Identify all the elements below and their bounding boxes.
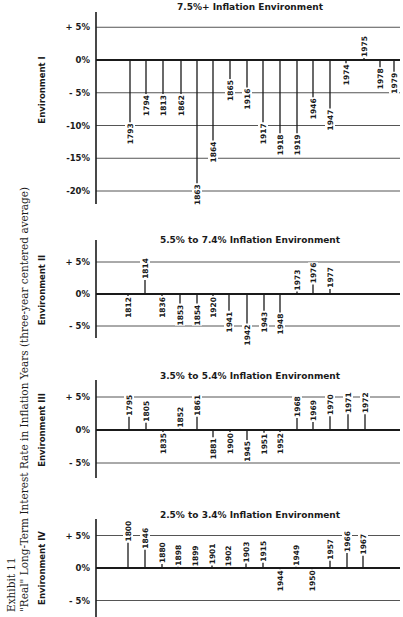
year-label: 1942 bbox=[243, 325, 252, 346]
panel-title: 5.5% to 7.4% Inflation Environment bbox=[160, 235, 341, 245]
year-label: 1916 bbox=[243, 89, 252, 110]
ytick-label: + 5% bbox=[65, 392, 90, 402]
year-label: 1795 bbox=[125, 395, 134, 416]
panel-1: 7.5%+ Inflation EnvironmentEnvironment I… bbox=[37, 2, 400, 205]
ytick-label: - 5% bbox=[69, 321, 90, 331]
year-label: 1814 bbox=[141, 258, 150, 279]
year-label: 1794 bbox=[142, 95, 151, 116]
year-label: 1969 bbox=[309, 400, 318, 421]
year-label: 1898 bbox=[174, 545, 183, 566]
year-label: 1899 bbox=[191, 545, 200, 566]
year-label: 1800 bbox=[124, 521, 133, 542]
year-label: 1812 bbox=[124, 297, 133, 318]
year-label: 1973 bbox=[293, 270, 302, 291]
panel-title: 7.5%+ Inflation Environment bbox=[177, 2, 324, 12]
year-label: 1852 bbox=[176, 407, 185, 428]
year-label: 1865 bbox=[226, 80, 235, 101]
exhibit-title-rotated: "Real" Long-Term Interest Rate in Inflat… bbox=[18, 187, 30, 612]
year-label: 1945 bbox=[243, 441, 252, 462]
year-label: 1862 bbox=[177, 95, 186, 116]
year-label: 1947 bbox=[326, 110, 335, 131]
ytick-label: 0% bbox=[76, 55, 91, 65]
year-label: 1901 bbox=[208, 543, 217, 564]
year-label: 1966 bbox=[343, 531, 352, 552]
year-label: 1919 bbox=[293, 134, 302, 155]
year-label: 1950 bbox=[308, 570, 317, 591]
year-label: 1918 bbox=[276, 134, 285, 155]
year-label: 1970 bbox=[326, 394, 335, 415]
panel-2: 5.5% to 7.4% Inflation EnvironmentEnviro… bbox=[37, 235, 400, 345]
year-label: 1805 bbox=[142, 401, 151, 422]
year-label: 1813 bbox=[159, 95, 168, 116]
ytick-label: -20% bbox=[66, 186, 90, 196]
year-label: 1864 bbox=[209, 142, 218, 163]
year-label: 1915 bbox=[259, 541, 268, 562]
ytick-label: + 5% bbox=[65, 531, 90, 541]
year-label: 1900 bbox=[226, 433, 235, 454]
year-label: 1944 bbox=[276, 570, 285, 591]
year-label: 1972 bbox=[361, 392, 370, 413]
ytick-label: - 5% bbox=[69, 596, 90, 606]
ytick-label: - 5% bbox=[69, 88, 90, 98]
panel-ylabel: Environment IV bbox=[37, 531, 47, 605]
year-label: 1836 bbox=[158, 297, 167, 318]
ytick-label: -10% bbox=[66, 121, 90, 131]
panel-4: 2.5% to 3.4% Inflation EnvironmentEnviro… bbox=[37, 510, 400, 617]
year-label: 1951 bbox=[260, 434, 269, 455]
year-label: 1881 bbox=[209, 438, 218, 459]
year-label: 1835 bbox=[159, 433, 168, 454]
panel-ylabel: Environment III bbox=[37, 393, 47, 467]
year-label: 1976 bbox=[309, 262, 318, 283]
year-label: 1846 bbox=[141, 528, 150, 549]
year-label: 1967 bbox=[359, 534, 368, 555]
year-label: 1917 bbox=[259, 123, 268, 144]
year-label: 1977 bbox=[326, 267, 335, 288]
year-label: 1920 bbox=[209, 297, 218, 318]
panel-ylabel: Environment II bbox=[37, 255, 47, 325]
exhibit-chart: 7.5%+ Inflation EnvironmentEnvironment I… bbox=[0, 0, 403, 617]
year-label: 1971 bbox=[344, 392, 353, 413]
year-label: 1943 bbox=[260, 312, 269, 333]
year-label: 1978 bbox=[376, 68, 385, 89]
year-label: 1975 bbox=[360, 36, 369, 57]
year-label: 1903 bbox=[242, 542, 251, 563]
year-label: 1979 bbox=[390, 73, 399, 94]
ytick-label: - 5% bbox=[69, 458, 90, 468]
panel-3: 3.5% to 5.4% Inflation EnvironmentEnviro… bbox=[37, 371, 400, 478]
year-label: 1854 bbox=[193, 305, 202, 326]
panel-title: 3.5% to 5.4% Inflation Environment bbox=[160, 371, 341, 381]
ytick-label: 0% bbox=[76, 425, 91, 435]
year-label: 1793 bbox=[126, 123, 135, 144]
ytick-label: 0% bbox=[76, 289, 91, 299]
ytick-label: -15% bbox=[66, 153, 90, 163]
year-label: 1957 bbox=[326, 539, 335, 560]
year-label: 1968 bbox=[293, 396, 302, 417]
year-label: 1948 bbox=[276, 314, 285, 335]
year-label: 1946 bbox=[309, 98, 318, 119]
exhibit-label-rotated: Exhibit 11 bbox=[5, 557, 17, 612]
year-label: 1952 bbox=[276, 433, 285, 454]
year-label: 1863 bbox=[193, 184, 202, 205]
panel-ylabel: Environment I bbox=[37, 56, 47, 123]
ytick-label: + 5% bbox=[65, 22, 90, 32]
panel-title: 2.5% to 3.4% Inflation Environment bbox=[160, 510, 341, 520]
year-label: 1853 bbox=[176, 305, 185, 326]
year-label: 1941 bbox=[225, 312, 234, 333]
year-label: 1861 bbox=[193, 395, 202, 416]
year-label: 1974 bbox=[342, 64, 351, 85]
year-label: 1949 bbox=[292, 545, 301, 566]
ytick-label: + 5% bbox=[65, 257, 90, 267]
year-label: 1880 bbox=[158, 542, 167, 563]
ytick-label: 0% bbox=[76, 563, 91, 573]
year-label: 1902 bbox=[224, 545, 233, 566]
